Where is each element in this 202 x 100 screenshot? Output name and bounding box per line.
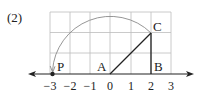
point-P-dot: [50, 72, 54, 76]
tick-label: 2: [148, 79, 154, 93]
point-C-label: C: [153, 19, 162, 34]
tick-label: 0: [107, 79, 113, 93]
point-A-label: A: [97, 59, 107, 74]
tick-label: −2: [64, 79, 77, 93]
segment-AC: [110, 33, 151, 74]
tick-label: −1: [84, 79, 97, 93]
tick-label: −3: [44, 79, 57, 93]
problem-label: (2): [7, 10, 22, 25]
tick-label: 1: [128, 79, 134, 93]
point-B-label: B: [154, 59, 163, 74]
number-line-diagram: (2) P A B C −3 −2 −1 0 1 2 3: [0, 0, 202, 100]
tick-labels: −3 −2 −1 0 1 2 3: [44, 79, 174, 93]
tick-label: 3: [168, 79, 174, 93]
point-P-label: P: [57, 59, 64, 74]
